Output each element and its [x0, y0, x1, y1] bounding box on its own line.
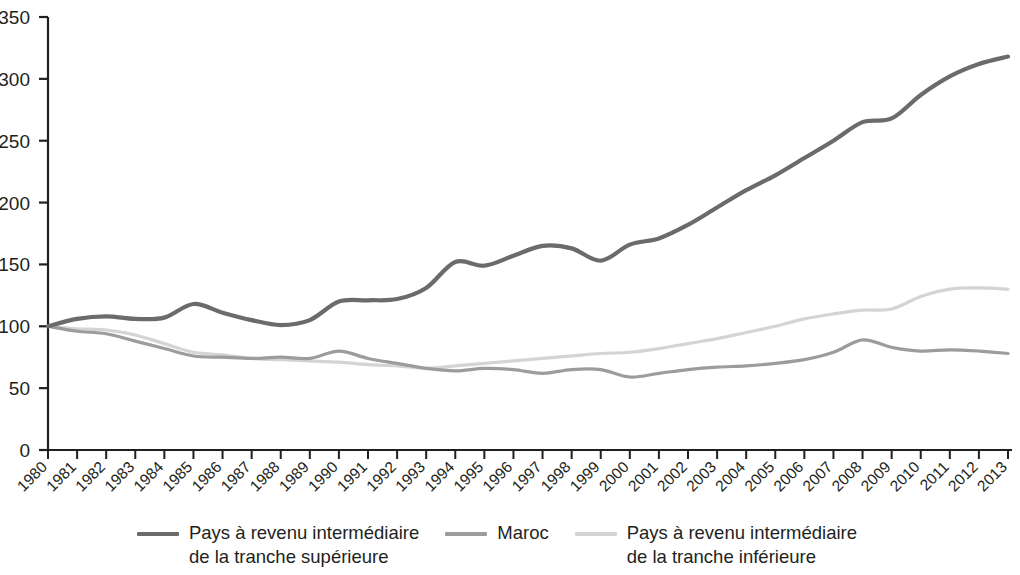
x-axis-tick-label: 1989: [276, 458, 312, 494]
x-axis-tick-label: 2004: [712, 458, 749, 495]
x-axis-tick-label: 2000: [596, 458, 633, 495]
x-axis-tick-label: 1986: [188, 458, 224, 494]
x-axis: [48, 450, 1012, 459]
x-axis-tick-label: 1981: [43, 458, 79, 494]
x-axis-tick-label: 2002: [654, 458, 690, 494]
legend-label: Pays à revenu intermédiaire de la tranch…: [189, 521, 419, 569]
chart-legend: Pays à revenu intermédiaire de la tranch…: [0, 521, 1020, 569]
y-axis-tick-label: 250: [0, 131, 30, 152]
x-axis-tick-label: 1987: [217, 458, 253, 494]
x-axis-tick-label: 1997: [508, 458, 544, 494]
x-axis-tick-label: 2011: [916, 458, 952, 494]
x-axis-tick-label: 2005: [741, 458, 777, 494]
y-axis-tick-label: 150: [0, 254, 30, 275]
y-axis-tick-label: 100: [0, 316, 30, 337]
y-axis-tick-label: 200: [0, 193, 30, 214]
legend-label: Maroc: [497, 521, 548, 545]
x-axis-tick-label: 2006: [770, 458, 806, 494]
legend-item[interactable]: Pays à revenu intermédiaire de la tranch…: [137, 521, 419, 569]
chart-container: 050100150200250300350 198019811982198319…: [0, 0, 1020, 575]
x-axis-tick-label: 1994: [421, 458, 458, 495]
y-axis-tick-label: 0: [19, 440, 30, 461]
y-axis-tick-label: 300: [0, 69, 30, 90]
legend-color-swatch: [137, 532, 179, 536]
x-axis-tick-label: 2009: [857, 458, 893, 494]
x-axis-tick-label: 2010: [886, 458, 923, 495]
x-axis-tick-label: 1980: [14, 458, 51, 495]
legend-label: Pays à revenu intermédiaire de la tranch…: [627, 521, 857, 569]
y-axis: 050100150200250300350: [0, 7, 48, 461]
x-axis-tick-label: 2012: [945, 458, 981, 494]
legend-item[interactable]: Pays à revenu intermédiaire de la tranch…: [575, 521, 857, 569]
y-axis-tick-label: 350: [0, 7, 30, 28]
x-axis-tick-label: 1996: [479, 458, 515, 494]
data-series-group: [48, 57, 1008, 378]
x-axis-tick-label: 1993: [392, 458, 428, 494]
x-axis-tick-label: 1983: [101, 458, 137, 494]
x-axis-tick-label: 2001: [625, 458, 661, 494]
x-axis-tick-label: 1991: [334, 458, 370, 494]
x-axis-tick-label: 2007: [799, 458, 835, 494]
x-axis-tick-label: 1984: [130, 458, 167, 495]
x-axis-tick-label: 1982: [72, 458, 108, 494]
legend-item[interactable]: Maroc: [445, 521, 548, 545]
legend-color-swatch: [445, 532, 487, 536]
x-axis-tick-label: 1985: [159, 458, 195, 494]
series-line: [48, 57, 1008, 327]
y-axis-tick-label: 50: [9, 378, 30, 399]
x-axis-tick-label: 2003: [683, 458, 719, 494]
x-axis-tick-label: 1990: [305, 458, 342, 495]
x-axis-tick-label: 1998: [537, 458, 573, 494]
x-axis-tick-label: 1999: [566, 458, 602, 494]
legend-color-swatch: [575, 532, 617, 536]
x-axis-tick-label: 1988: [246, 458, 282, 494]
x-axis-tick-label: 1992: [363, 458, 399, 494]
x-axis-tick-label: 2008: [828, 458, 864, 494]
line-chart-plot: 050100150200250300350 198019811982198319…: [0, 0, 1020, 575]
x-axis-tick-label: 1995: [450, 458, 486, 494]
x-axis-tick-label: 2013: [974, 458, 1010, 494]
x-tick-labels: 1980198119821983198419851986198719881989…: [14, 458, 1010, 495]
